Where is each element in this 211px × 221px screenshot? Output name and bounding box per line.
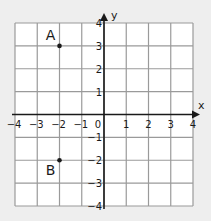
coordinate-grid-svg: xy−4−3−2−112344321−1−2−3−40AB	[0, 0, 211, 221]
y-tick-label: −1	[87, 132, 102, 143]
x-tick-label: 4	[190, 119, 196, 130]
x-tick-label: 2	[145, 119, 151, 130]
x-tick-label: −2	[51, 119, 66, 130]
y-tick-label: −2	[87, 155, 102, 166]
y-tick-label: −4	[87, 201, 102, 212]
x-tick-label: −3	[29, 119, 44, 130]
x-tick-label: 1	[123, 119, 129, 130]
origin-label: 0	[95, 119, 101, 130]
y-tick-label: 3	[96, 41, 102, 52]
y-tick-label: 1	[96, 87, 102, 98]
point-label-a: A	[46, 27, 56, 43]
y-tick-label: 4	[96, 18, 102, 29]
y-tick-label: 2	[96, 64, 102, 75]
point-label-b: B	[46, 162, 56, 178]
coordinate-plane: xy−4−3−2−112344321−1−2−3−40AB	[0, 0, 211, 221]
point-a	[57, 44, 62, 49]
y-axis-label: y	[111, 9, 118, 22]
x-axis-label: x	[198, 99, 205, 112]
x-tick-label: 3	[168, 119, 174, 130]
x-tick-label: −4	[7, 119, 22, 130]
point-b	[57, 158, 62, 163]
y-tick-label: −3	[87, 178, 102, 189]
x-axis-arrow-icon	[192, 111, 200, 119]
x-tick-label: −1	[73, 119, 88, 130]
